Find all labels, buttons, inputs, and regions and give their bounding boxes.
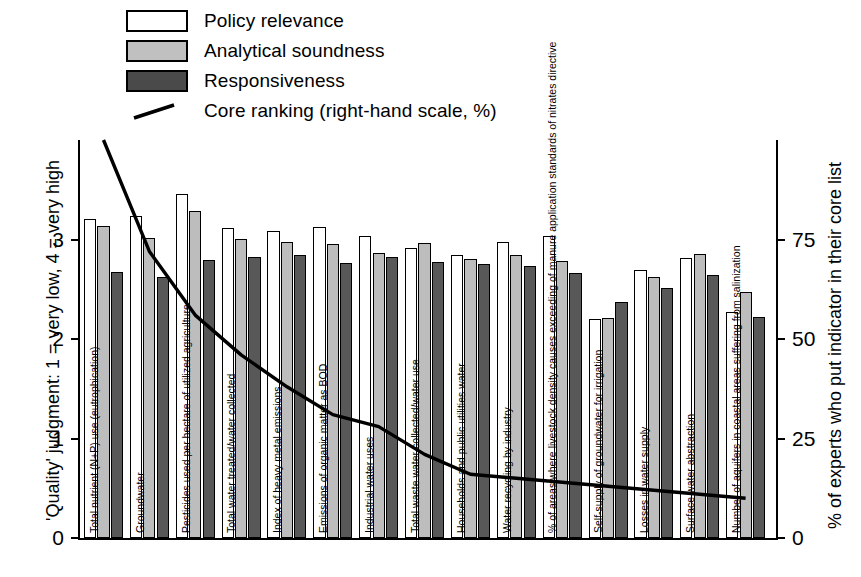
right-axis-line	[776, 140, 778, 540]
bar-responsiveness[interactable]	[707, 275, 719, 538]
bar-responsiveness[interactable]	[524, 266, 536, 538]
bar-group: Self-supply of groundwater for irrigatio…	[589, 140, 635, 538]
bar-group: Water recycling by industry	[497, 140, 543, 538]
bar-group: Surface water abstraction	[680, 140, 726, 538]
bar-responsiveness[interactable]	[111, 272, 123, 538]
bar-responsiveness[interactable]	[753, 317, 765, 538]
bar-group: Number of aquifers in coastal areas suff…	[726, 140, 772, 538]
bar-responsiveness[interactable]	[478, 264, 490, 538]
category-label: % of areas where livestock density cause…	[546, 42, 558, 533]
bar-group: Pesticides used per hectare of utilized …	[176, 140, 222, 538]
right-tick-mark	[778, 438, 785, 440]
bar-responsiveness[interactable]	[340, 263, 352, 538]
left-tick-label: 2	[24, 328, 64, 349]
dark-swatch-icon	[126, 70, 188, 92]
left-tick-mark	[71, 239, 78, 241]
bottom-axis-line	[78, 538, 778, 540]
bar-group: Groundwater	[130, 140, 176, 538]
legend-label: Core ranking (right-hand scale, %)	[204, 100, 497, 122]
bar-group: Total nutrient (N+P) use (eutrophication…	[84, 140, 130, 538]
legend-item-analytical-soundness: Analytical soundness	[126, 36, 556, 66]
left-tick-label: 0	[24, 527, 64, 548]
legend-item-responsiveness: Responsiveness	[126, 66, 556, 96]
category-label: Total water treated/water collected	[225, 374, 237, 533]
bar-group: Households and public utilities water	[451, 140, 497, 538]
bar-group: Total water treated/water collected	[222, 140, 268, 538]
bar-group: Industrial water uses	[359, 140, 405, 538]
bar-responsiveness[interactable]	[157, 277, 169, 538]
left-tick-label: 3	[24, 229, 64, 250]
left-tick-mark	[71, 438, 78, 440]
left-tick-label: 1	[24, 428, 64, 449]
right-tick-mark	[778, 338, 785, 340]
category-label: Surface water abstraction	[684, 414, 696, 533]
right-tick-label: 25	[792, 428, 832, 449]
bar-group: Index of heavy metal emissions	[267, 140, 313, 538]
bar-responsiveness[interactable]	[569, 273, 581, 538]
category-label: Number of aquifers in coastal areas suff…	[730, 245, 742, 533]
category-label: Groundwater	[134, 472, 146, 533]
bar-group: Losses in water supply	[634, 140, 680, 538]
category-label: Index of heavy metal emissions	[271, 387, 283, 534]
bar-responsiveness[interactable]	[661, 288, 673, 538]
category-label: Pesticides used per hectare of utilized …	[180, 304, 192, 533]
category-label: Emissions of organic matter as BOD	[317, 364, 329, 533]
left-tick-mark	[71, 338, 78, 340]
line-swatch-icon	[126, 100, 188, 122]
category-label: Households and public utilities water	[455, 363, 467, 533]
right-tick-label: 75	[792, 229, 832, 250]
plot-area: 0123 0255075 Total nutrient (N+P) use (e…	[78, 140, 778, 540]
bar-responsiveness[interactable]	[386, 257, 398, 538]
right-tick-mark	[778, 239, 785, 241]
bar-responsiveness[interactable]	[248, 257, 260, 538]
category-label: Water recycling by industry	[501, 407, 513, 533]
category-label: Self-supply of groundwater for irrigatio…	[592, 350, 604, 533]
chart-root: Policy relevance Analytical soundness Re…	[0, 0, 861, 577]
legend-label: Policy relevance	[204, 10, 344, 32]
bar-responsiveness[interactable]	[432, 262, 444, 538]
white-swatch-icon	[126, 10, 188, 32]
category-label: Losses in water supply	[638, 427, 650, 533]
bar-group: % of areas where livestock density cause…	[543, 140, 589, 538]
bar-responsiveness[interactable]	[294, 255, 306, 538]
bar-group: Total waste water collected/water use	[405, 140, 451, 538]
category-label: Industrial water uses	[363, 437, 375, 533]
right-tick-mark	[778, 537, 785, 539]
category-label: Total nutrient (N+P) use (eutrophication…	[88, 347, 100, 533]
right-tick-label: 0	[792, 527, 832, 548]
legend-label: Responsiveness	[204, 70, 345, 92]
legend-label: Analytical soundness	[204, 40, 385, 62]
bar-responsiveness[interactable]	[615, 302, 627, 538]
bar-group: Emissions of organic matter as BOD	[313, 140, 359, 538]
right-tick-label: 50	[792, 328, 832, 349]
legend-item-core-ranking: Core ranking (right-hand scale, %)	[126, 96, 556, 126]
bar-responsiveness[interactable]	[203, 260, 215, 538]
left-tick-mark	[71, 537, 78, 539]
legend-item-policy-relevance: Policy relevance	[126, 6, 556, 36]
gray-swatch-icon	[126, 40, 188, 62]
category-label: Total waste water collected/water use	[409, 359, 421, 533]
chart-legend: Policy relevance Analytical soundness Re…	[126, 6, 556, 126]
left-axis-line	[78, 140, 80, 540]
